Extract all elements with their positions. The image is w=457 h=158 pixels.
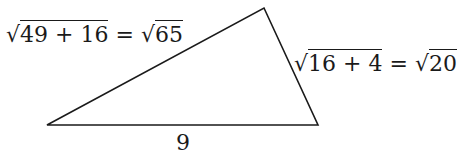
radical-right-lhs: √16 + 4 xyxy=(294,53,382,75)
radical-symbol: √ xyxy=(415,51,429,76)
radicand: 49 + 16 xyxy=(20,20,108,47)
right-side-label: √16 + 4 = √20 xyxy=(294,53,457,75)
base-label: 9 xyxy=(176,132,190,154)
radicand: 20 xyxy=(429,49,457,76)
equals-sign: = xyxy=(389,51,407,76)
radical-symbol: √ xyxy=(141,22,155,47)
radical-right-rhs: √20 xyxy=(415,53,457,75)
radical-symbol: √ xyxy=(6,22,20,47)
radical-left-rhs: √65 xyxy=(141,24,183,46)
radical-symbol: √ xyxy=(294,51,308,76)
equals-sign: = xyxy=(115,22,133,47)
radicand: 65 xyxy=(155,20,183,47)
radicand: 16 + 4 xyxy=(308,49,382,76)
left-side-label: √49 + 16 = √65 xyxy=(6,24,183,46)
radical-left-lhs: √49 + 16 xyxy=(6,24,108,46)
